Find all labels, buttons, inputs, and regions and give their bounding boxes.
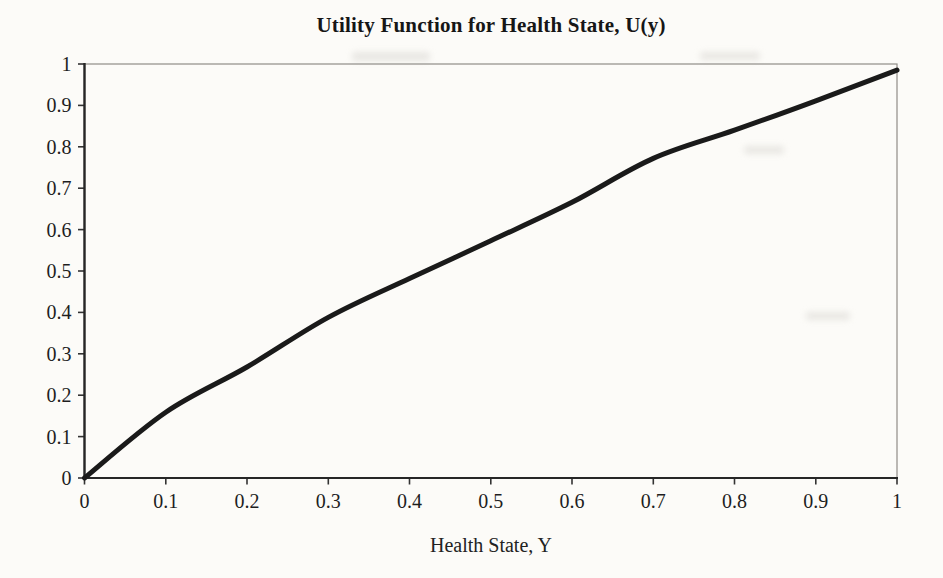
x-tick-label: 0.5 [478,490,503,512]
y-tick-label: 0.7 [47,177,72,199]
x-tick-label: 0.7 [641,490,666,512]
x-tick-label: 1 [892,490,902,512]
x-tick-label: 0.6 [560,490,585,512]
utility-curve [85,70,898,478]
x-tick-label: 0.8 [722,490,747,512]
y-tick-label: 0.4 [47,301,72,323]
y-tick-label: 0 [62,467,72,489]
y-tick-label: 0.1 [47,426,72,448]
y-tick-label: 0.5 [47,260,72,282]
y-tick-label: 1 [62,53,72,75]
y-tick-label: 0.2 [47,384,72,406]
chart-figure: Utility Function for Health State, U(y) … [0,0,943,578]
x-tick-label: 0.3 [316,490,341,512]
x-tick-label: 0.1 [153,490,178,512]
x-tick-label: 0.9 [803,490,828,512]
y-tick-label: 0.6 [47,219,72,241]
plot-border [85,64,898,478]
utility-curve-plot: 00.10.20.30.40.50.60.70.80.9100.10.20.30… [0,0,943,578]
x-tick-label: 0.4 [397,490,422,512]
y-tick-label: 0.3 [47,343,72,365]
y-tick-label: 0.8 [47,136,72,158]
x-axis-title: Health State, Y [85,534,897,557]
y-tick-label: 0.9 [47,94,72,116]
x-tick-label: 0.2 [235,490,260,512]
x-tick-label: 0 [80,490,90,512]
